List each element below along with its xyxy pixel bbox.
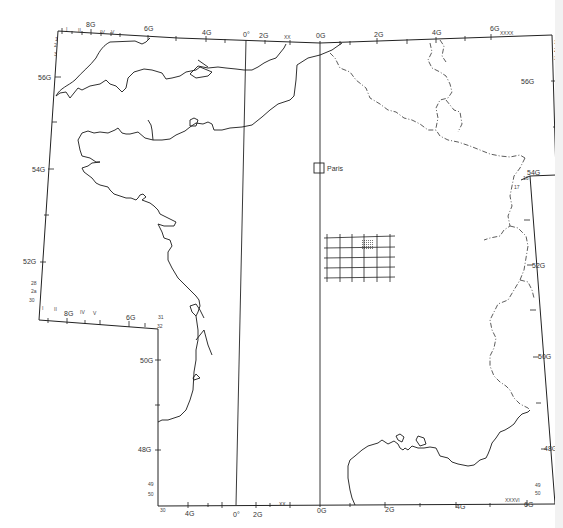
top-label-2g-right: 2G [374, 31, 383, 38]
bottom-label-xx: XX [279, 501, 286, 507]
right-label-56g: 56G [521, 78, 534, 85]
left-small-28: 28 [31, 280, 37, 286]
france-coastline [78, 43, 530, 505]
bottom-label-4g-right: 4G [456, 503, 465, 510]
inset-small-iv: IV [80, 309, 85, 315]
left-small-50: 50 [148, 491, 154, 497]
paris-marker[interactable] [314, 163, 324, 173]
inset-small-i: I [42, 305, 43, 311]
left-label-54g: 54G [32, 166, 45, 173]
inset-label-6g: 6G [126, 314, 135, 321]
paris-label: Paris [327, 165, 343, 172]
bottom-axis-labels: 30 4G 0° 2G XX 0G 2G 4G XXXVI 6G [160, 497, 533, 518]
right-label-50g: 50G [538, 353, 551, 360]
inset-label-8g: 8G [64, 310, 73, 317]
map-canvas: Paris 8G 6G 4G 0° 2G XX 0G 2G 4G 6G XXXX… [0, 0, 563, 528]
top-small-iv: IV [100, 29, 105, 35]
top-label-6g-right: 6G [490, 25, 499, 32]
right-small-49: 49 [535, 482, 541, 488]
inset-axis-labels: 8G 6G I II IV V [42, 305, 135, 321]
left-label-48g: 48G [138, 446, 151, 453]
left-small-2: 2 [54, 42, 57, 48]
bottom-label-xxxvi: XXXVI [505, 497, 520, 503]
bottom-label-6g: 6G [524, 501, 533, 508]
bottom-label-30: 30 [160, 507, 166, 513]
england-coastline [56, 38, 286, 98]
meridian-lines [236, 40, 320, 507]
left-label-50g: 50G [140, 357, 153, 364]
left-label-56g: 56G [38, 74, 51, 81]
inset-small-v: V [93, 310, 97, 316]
left-small-31: 31 [158, 314, 164, 320]
top-label-0g: 0G [316, 32, 325, 39]
left-small-49: 49 [148, 481, 154, 487]
top-label-4g-left: 4G [202, 29, 211, 36]
left-small-32: 32 [157, 323, 163, 329]
inset-small-ii: II [54, 306, 57, 312]
left-label-52g: 52G [23, 258, 36, 265]
top-axis-labels: 8G 6G 4G 0° 2G XX 0G 2G 4G 6G XXXX I II … [66, 21, 514, 40]
bottom-label-0g: 0G [317, 507, 326, 514]
left-small-30: 30 [29, 297, 35, 303]
top-label-xx: XX [284, 34, 291, 40]
bottom-label-2g-left: 2G [253, 511, 262, 518]
map-frame [39, 31, 556, 506]
land-borders [330, 40, 534, 410]
bottom-label-2g-right: 2G [385, 506, 394, 513]
top-label-0deg: 0° [243, 31, 250, 38]
top-label-8g: 8G [86, 21, 95, 28]
top-small-i: I [66, 26, 67, 32]
right-small-50: 50 [535, 490, 541, 496]
left-axis-ticks [40, 77, 161, 450]
right-label-52g: 52G [532, 262, 545, 269]
left-axis-labels: 56G 54G 52G 50G 48G 1 2 3 28 2a 30 31 32… [23, 36, 164, 497]
top-axis-ticks [62, 28, 491, 45]
left-small-3: 3 [54, 51, 57, 57]
right-axis-labels: 56G 54G 52G 50G 48G 1 2 3 16 17 49 50 [514, 39, 557, 496]
top-label-2g-left: 2G [259, 32, 268, 39]
top-label-xxxx: XXXX [500, 30, 514, 36]
bottom-label-4g-left: 4G [185, 510, 194, 517]
right-small-16: 16 [523, 175, 529, 181]
left-small-2a: 2a [31, 288, 37, 294]
grid-overlay [324, 234, 395, 282]
right-label-54g: 54G [527, 169, 540, 176]
right-small-17: 17 [514, 184, 520, 190]
scan-edge [555, 0, 563, 528]
top-small-ii: II [78, 27, 81, 33]
bottom-label-0deg: 0° [233, 511, 240, 518]
top-label-6g: 6G [144, 25, 153, 32]
top-label-4g-right: 4G [432, 29, 441, 36]
